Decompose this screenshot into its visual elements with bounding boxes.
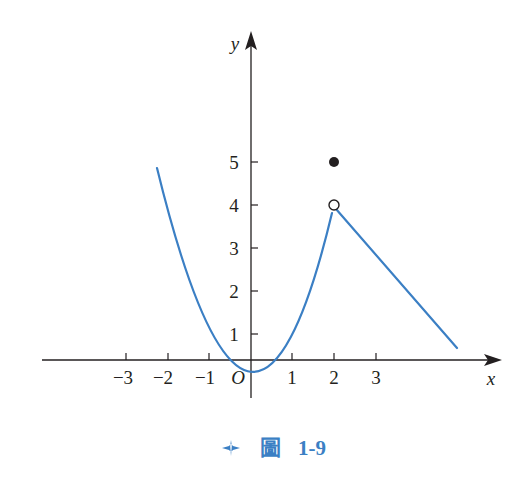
x-tick-label: 3 <box>371 367 381 388</box>
y-tick-label: 1 <box>229 324 239 345</box>
x-axis-label: x <box>486 368 496 389</box>
figure-caption: 圖 1-9 <box>222 436 326 460</box>
filled-point <box>329 157 339 167</box>
line-segment <box>336 209 457 348</box>
four-point-star-icon <box>222 440 240 456</box>
x-tick-label: −2 <box>153 367 173 388</box>
x-tick-label: −1 <box>195 367 215 388</box>
y-tick-label: 3 <box>229 238 239 259</box>
x-tick-label: 2 <box>329 367 339 388</box>
caption-label: 圖 <box>260 436 281 460</box>
y-axis <box>245 31 257 398</box>
x-tick-label: −3 <box>113 367 133 388</box>
parabola-curve <box>157 168 332 372</box>
y-tick-label: 4 <box>229 195 239 216</box>
y-axis-label: y <box>229 33 240 54</box>
y-ticks <box>251 162 258 334</box>
y-tick-label: 2 <box>229 281 239 302</box>
x-tick-label: 1 <box>287 367 297 388</box>
function-graph: −3 −2 −1 1 2 3 O x 1 2 3 4 5 y 圖 1-9 <box>0 0 529 489</box>
caption-number: 1-9 <box>298 436 326 460</box>
y-tick-label: 5 <box>229 152 239 173</box>
open-point <box>329 200 339 210</box>
